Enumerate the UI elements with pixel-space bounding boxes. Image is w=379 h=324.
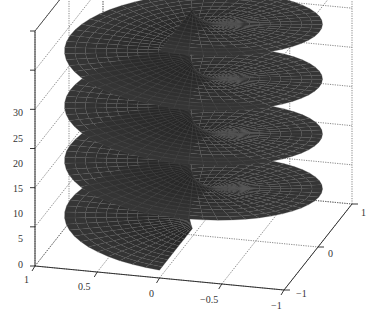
z-tick-20: 20 [13, 158, 23, 169]
x-tick-0: 0 [149, 288, 154, 299]
x-tick-neg1: −1 [271, 300, 282, 311]
z-tick-25: 25 [13, 133, 23, 144]
x-tick-1: 1 [24, 274, 29, 285]
z-tick-30: 30 [13, 107, 23, 118]
y-tick-neg1: −1 [296, 288, 307, 299]
z-tick-5: 5 [18, 233, 23, 244]
y-tick-1: 1 [361, 207, 366, 218]
spiral-surface [65, 0, 323, 270]
surface-plot [0, 0, 379, 324]
z-tick-0: 0 [18, 259, 23, 270]
x-tick-0.5: 0.5 [78, 281, 91, 292]
y-tick-0: 0 [328, 248, 333, 259]
z-tick-10: 10 [13, 208, 23, 219]
z-tick-15: 15 [13, 183, 23, 194]
x-tick-neg0.5: −0.5 [200, 294, 218, 305]
